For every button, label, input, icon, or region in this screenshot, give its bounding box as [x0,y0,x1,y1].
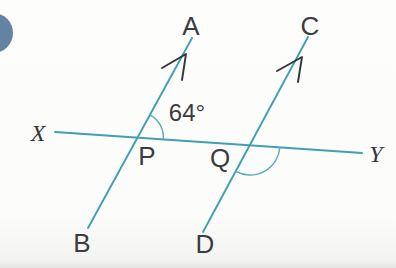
transversal-line-xy [55,132,362,153]
angle-arc-p [150,115,163,140]
list-bullet-circle [0,13,13,53]
label-end-x: X [31,121,46,145]
line-cd [203,37,308,232]
line-ab [88,38,192,228]
label-ray-b: B [73,230,90,256]
label-ray-d: D [196,231,215,257]
label-point-q: Q [210,145,230,171]
label-end-y: Y [369,142,382,166]
angle-arc-q [236,147,280,175]
label-point-p: P [138,143,155,169]
textbook-geometry-figure: A C X Y P Q B D 64° [0,0,396,268]
arrowhead-a-icon [162,54,186,80]
label-angle-64: 64° [169,101,205,125]
label-ray-a: A [182,13,199,39]
label-ray-c: C [301,13,320,39]
